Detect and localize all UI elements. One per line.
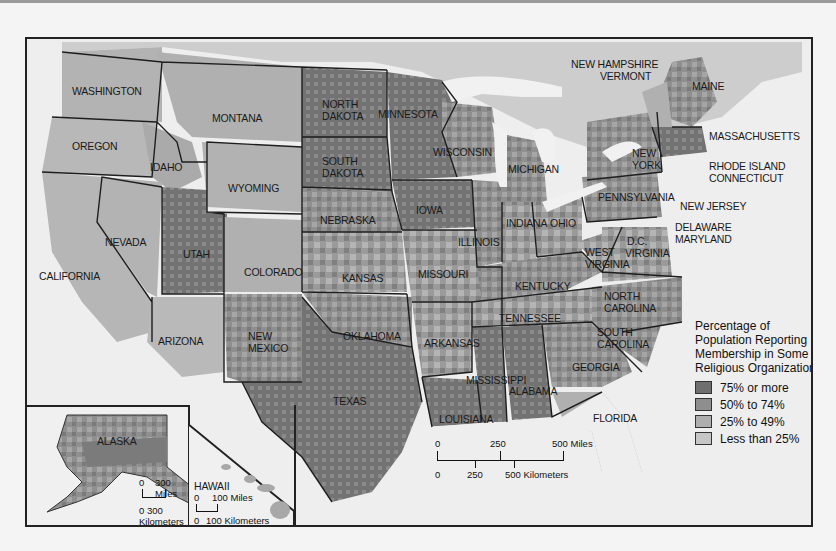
legend-title-line-4: Religious Organization [695, 361, 813, 375]
hawaii-label: HAWAII [194, 480, 229, 492]
scale-miles-0: 0 [435, 438, 440, 449]
state-label: MINNESOTA [378, 108, 438, 120]
state-label: WYOMING [228, 182, 279, 194]
alaska-label: ALASKA [97, 435, 137, 447]
state-label: SOUTH CAROLINA [597, 326, 649, 350]
state-label: IDAHO [150, 161, 182, 173]
state-label: ILLINOIS [458, 236, 500, 248]
state-label: D.C. [627, 235, 647, 247]
legend-swatch-under-25 [695, 432, 712, 445]
state-label: WISCONSIN [433, 146, 492, 158]
state-label: MASSACHUSETTS [709, 130, 800, 142]
legend-swatch-50-74 [695, 398, 712, 411]
scale-km-500: 500 Kilometers [505, 469, 568, 480]
top-edge-stripe [0, 0, 836, 3]
legend-title-line-3: Membership in Some [695, 347, 813, 361]
state-label: WASHINGTON [72, 85, 142, 97]
state-label: ARKANSAS [424, 337, 480, 349]
hawaii-scale-km-100: 100 Kilometers [206, 515, 269, 526]
state-label: UTAH [183, 248, 210, 260]
state-label: NORTH CAROLINA [604, 290, 656, 314]
legend-item-25-49: 25% to 49% [695, 413, 813, 430]
state-label: CALIFORNIA [39, 270, 100, 282]
legend-label: 25% to 49% [720, 415, 785, 429]
scale-tick-km-500 [514, 460, 515, 468]
state-label: NEW HAMPSHIRE [571, 58, 658, 70]
state-label: NEW JERSEY [680, 200, 746, 212]
state-label: MAINE [692, 80, 724, 92]
alaska-scale-km: 0 300 Kilometers [139, 505, 188, 527]
legend-swatch-25-49 [695, 415, 712, 428]
scale-miles-250: 250 [490, 438, 506, 449]
state-label: INDIANA [506, 217, 547, 229]
legend-swatch-75-plus [695, 381, 712, 394]
scale-tick-miles-250 [500, 451, 501, 460]
state-label: SOUTH DAKOTA [322, 155, 363, 179]
hawaii-scale-bar [196, 504, 218, 512]
state-label: ARIZONA [158, 335, 203, 347]
map-frame: WASHINGTONOREGONIDAHOMONTANAWYOMINGNORTH… [25, 37, 813, 527]
legend-item-75-plus: 75% or more [695, 379, 813, 396]
state-label: FLORIDA [593, 412, 637, 424]
state-label: TEXAS [333, 395, 366, 407]
legend: Percentage of Population Reporting Membe… [695, 319, 813, 447]
legend-label: 50% to 74% [720, 398, 785, 412]
legend-title-line-1: Percentage of [695, 319, 813, 333]
state-label: WEST VIRGINIA [585, 246, 630, 270]
state-label: MICHIGAN [508, 163, 559, 175]
state-label: LOUISIANA [439, 413, 493, 425]
state-label: RHODE ISLAND [709, 160, 785, 172]
state-label: GEORGIA [572, 361, 620, 373]
state-label: MONTANA [212, 112, 262, 124]
state-label: KANSAS [342, 272, 383, 284]
legend-item-under-25: Less than 25% [695, 430, 813, 447]
state-label: NEBRASKA [320, 214, 376, 226]
state-label: MARYLAND [675, 233, 732, 245]
scale-km-0: 0 [435, 469, 440, 480]
state-label: VERMONT [600, 70, 651, 82]
state-label: NEVADA [105, 236, 146, 248]
legend-item-50-74: 50% to 74% [695, 396, 813, 413]
legend-title-line-2: Population Reporting [695, 333, 813, 347]
alaska-scale-bar [142, 489, 166, 498]
state-label: NEW YORK [632, 147, 661, 171]
state-label: IOWA [416, 204, 443, 216]
scale-km-250: 250 [467, 469, 483, 480]
legend-label: 75% or more [720, 381, 789, 395]
hawaii-scale-km-0: 0 [194, 515, 199, 526]
state-label: OKLAHOMA [343, 330, 401, 342]
scale-miles-500: 500 Miles [552, 438, 593, 449]
state-label: OREGON [72, 140, 117, 152]
hawaii-inset: HAWAII 0 100 Miles 0 100 Kilometers [188, 405, 296, 527]
state-label: KENTUCKY [515, 280, 571, 292]
state-label: DELAWARE [675, 221, 732, 233]
legend-label: Less than 25% [720, 432, 799, 446]
scale-tick-km-250 [475, 460, 476, 468]
state-label: VIRGINIA [625, 247, 670, 259]
state-label: OHIO [550, 217, 576, 229]
hawaii-scale-miles-100: 100 Miles [212, 492, 253, 503]
state-label: COLORADO [244, 266, 303, 278]
state-label: PENNSYLVANIA [598, 191, 675, 203]
state-label: NORTH DAKOTA [322, 98, 363, 122]
state-label: TENNESSEE [499, 312, 561, 324]
hawaii-scale-miles-0: 0 [194, 492, 199, 503]
state-label: NEW MEXICO [248, 330, 288, 354]
alaska-scale-miles-0: 0 [139, 477, 144, 488]
alaska-inset: ALASKA 0 300 Miles 0 300 Kilometers [25, 405, 190, 527]
state-label: ALABAMA [509, 385, 557, 397]
state-label: CONNECTICUT [709, 172, 783, 184]
state-label: MISSOURI [418, 268, 468, 280]
